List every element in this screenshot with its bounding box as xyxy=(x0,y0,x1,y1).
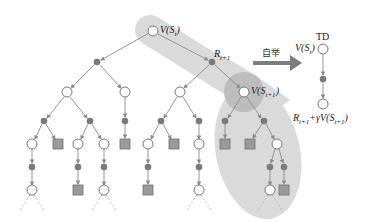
td-title: TD xyxy=(316,32,329,42)
bootstrap-label: 自举 xyxy=(262,49,280,58)
td-state-label: V(St) xyxy=(295,43,315,56)
td-backup-diagram xyxy=(318,44,328,109)
reward-label: Rt+1 xyxy=(214,49,230,62)
root-state-label: V(St) xyxy=(160,25,180,38)
next-state-label: V(St+1) xyxy=(251,86,279,99)
td-target-label: Rt+1+γV(St+1) xyxy=(293,113,348,126)
